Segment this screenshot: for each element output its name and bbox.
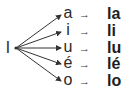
branch-arrow-o	[16, 48, 61, 81]
result-li: li	[107, 23, 116, 39]
vowel-u: u	[62, 39, 74, 55]
result-le-acute: lé	[107, 56, 120, 72]
branch-arrow-a	[16, 15, 61, 48]
arrow-icon: →	[79, 8, 90, 20]
branch-arrow-i	[16, 32, 61, 48]
arrow-icon: →	[79, 25, 90, 37]
arrow-icon: →	[79, 75, 90, 87]
result-lo: lo	[107, 73, 121, 89]
vowel-e-acute: é	[62, 55, 74, 71]
vowel-o: o	[62, 72, 74, 88]
result-la: la	[107, 6, 120, 22]
vowel-i: i	[62, 22, 74, 38]
result-lu: lu	[107, 40, 121, 56]
arrow-icon: →	[79, 58, 90, 70]
arrow-icon: →	[79, 42, 90, 54]
branch-arrow-e	[16, 48, 61, 64]
vowel-a: a	[62, 5, 74, 21]
